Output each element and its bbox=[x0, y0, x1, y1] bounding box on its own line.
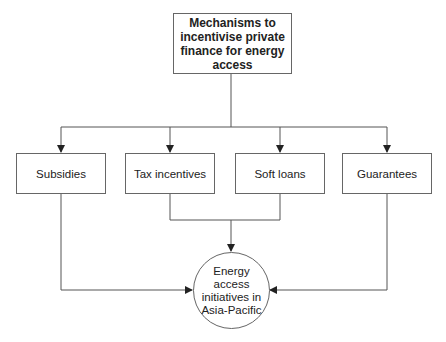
mechanism-label: Subsidies bbox=[36, 168, 86, 180]
mechanism-box-tax-incentives: Tax incentives bbox=[125, 153, 215, 194]
mechanism-label: Soft loans bbox=[254, 168, 305, 180]
mechanism-box-soft-loans: Soft loans bbox=[235, 153, 325, 194]
mechanism-label: Guarantees bbox=[357, 168, 417, 180]
mechanism-label: Tax incentives bbox=[134, 168, 206, 180]
diagram-canvas: Mechanisms to incentivise private financ… bbox=[0, 0, 446, 342]
title-text: Mechanisms to incentivise private financ… bbox=[178, 16, 287, 72]
mechanism-box-guarantees: Guarantees bbox=[342, 153, 432, 194]
title-box: Mechanisms to incentivise private financ… bbox=[173, 13, 292, 74]
mechanism-box-subsidies: Subsidies bbox=[16, 153, 106, 194]
outcome-circle: Energy access initiatives in Asia-Pacifi… bbox=[193, 252, 270, 329]
outcome-text: Energy access initiatives in Asia-Pacifi… bbox=[200, 265, 264, 317]
